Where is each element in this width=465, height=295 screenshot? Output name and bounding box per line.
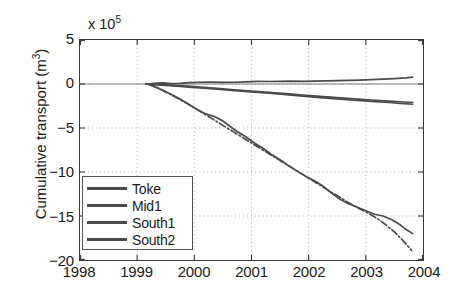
chart-figure: x 105 Cumulative transport (m3) 50−5−10−…	[0, 0, 465, 295]
x-tick-label: 2004	[408, 264, 441, 279]
legend-item[interactable]: Toke	[83, 180, 192, 197]
y-tick-label: 5	[66, 31, 74, 46]
legend-item[interactable]: South2	[83, 231, 192, 248]
y-axis-ticks: 50−5−10−15−20	[28, 0, 74, 295]
x-tick-label: 2000	[178, 264, 211, 279]
legend-item[interactable]: South1	[83, 214, 192, 231]
legend-item-label: Toke	[132, 182, 161, 196]
x-tick-label: 1998	[63, 264, 96, 279]
y-axis-multiplier-exponent: 5	[115, 14, 121, 25]
y-tick-label: −15	[49, 209, 74, 224]
chart-legend: TokeMid1South1South2	[82, 176, 193, 250]
x-tick-label: 1999	[120, 264, 153, 279]
series-line-south1	[146, 84, 413, 104]
y-tick-label: 0	[66, 75, 74, 90]
series-line-toke	[146, 77, 413, 84]
x-tick-label: 2003	[350, 264, 383, 279]
y-axis-multiplier: x 105	[88, 17, 121, 32]
legend-line-sample	[87, 221, 127, 224]
legend-line-sample	[87, 204, 127, 207]
y-tick-label: −5	[57, 120, 74, 135]
legend-item[interactable]: Mid1	[83, 197, 192, 214]
y-tick-label: −10	[49, 164, 74, 179]
x-tick-label: 2001	[235, 264, 268, 279]
legend-item-label: Mid1	[132, 199, 162, 213]
legend-line-sample	[87, 187, 127, 190]
x-tick-label: 2002	[293, 264, 326, 279]
legend-item-label: South2	[132, 233, 175, 247]
y-axis-multiplier-base: x 10	[88, 16, 115, 32]
legend-item-label: South1	[132, 216, 175, 230]
legend-line-sample	[87, 238, 127, 241]
